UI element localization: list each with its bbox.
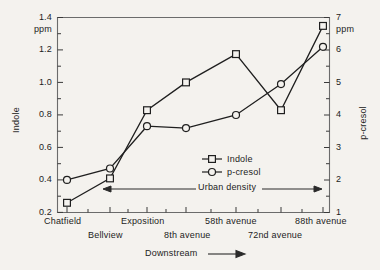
y-tick-label: 1.0 [24, 77, 52, 87]
x-label-72nd-avenue: 72nd avenue [248, 230, 302, 240]
y-tick-label: 0.6 [24, 142, 52, 152]
x-label-88th-avenue: 88th avenue [295, 216, 347, 226]
y-tick-label: 0.8 [24, 109, 52, 119]
left-axis-title: Indole [11, 90, 21, 150]
x-label-58th-avenue: 58th avenue [205, 216, 257, 226]
x-label-chatfield: Chatfield [44, 216, 81, 226]
x-label-exposition: Exposition [121, 216, 165, 226]
y2-tick-label: 7 [336, 12, 341, 22]
y2-tick-label: 4 [336, 109, 341, 119]
y-tick-label: 1.4 [24, 12, 52, 22]
y2-tick-label: 5 [336, 77, 341, 87]
y2-tick-label: 3 [336, 142, 341, 152]
y-tick-label: 1.2 [24, 44, 52, 54]
y-tick-label: 0.4 [24, 174, 52, 184]
urban-density-label: Urban density [198, 182, 256, 192]
x-axis-title: Downstream [145, 248, 198, 258]
y2-tick-label: 2 [336, 174, 341, 184]
x-label-8th-avenue: 8th avenue [164, 230, 211, 240]
y2-tick-label: 6 [336, 44, 341, 54]
legend-label-indole: Indole [227, 154, 253, 164]
left-axis-unit: ppm [24, 24, 52, 34]
right-axis-title: p-cresol [358, 93, 368, 153]
legend-label-p-cresol: p-cresol [227, 167, 261, 177]
right-axis-unit: ppm [336, 24, 354, 34]
x-label-bellview: Bellview [88, 230, 123, 240]
